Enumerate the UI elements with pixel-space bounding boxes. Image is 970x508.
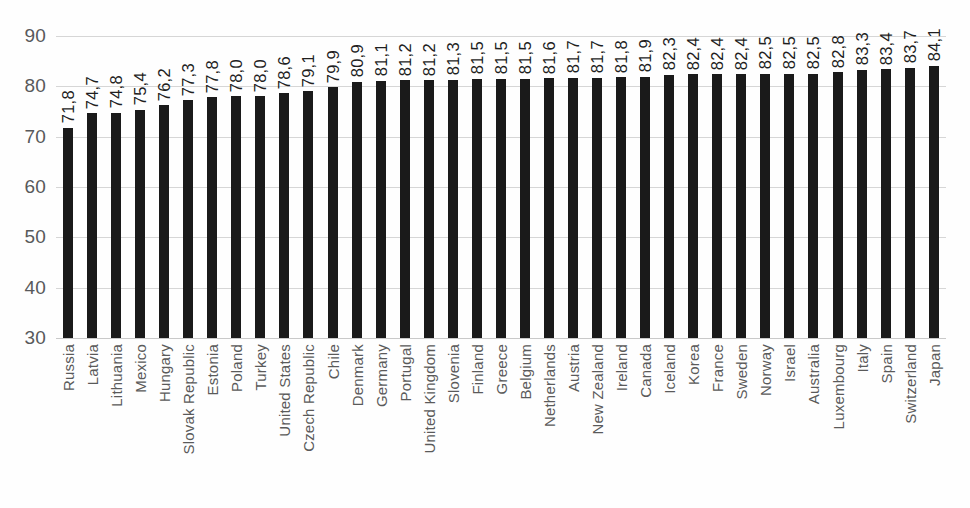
x-axis-tick: Austria bbox=[561, 342, 585, 502]
x-axis-category-label: Italy bbox=[853, 344, 870, 373]
bar[interactable] bbox=[881, 69, 891, 338]
x-axis-tick: Greece bbox=[489, 342, 513, 502]
bar[interactable] bbox=[303, 91, 313, 338]
x-axis-tick: Latvia bbox=[80, 342, 104, 502]
bar[interactable] bbox=[376, 81, 386, 338]
x-axis-category-label: Australia bbox=[805, 344, 822, 404]
bar-value-label: 78,0 bbox=[227, 59, 246, 92]
bar[interactable] bbox=[929, 66, 939, 338]
bar-value-label: 81,8 bbox=[612, 40, 631, 73]
bar[interactable] bbox=[255, 96, 265, 338]
bar[interactable] bbox=[135, 110, 145, 339]
bar[interactable] bbox=[857, 70, 867, 338]
bar[interactable] bbox=[87, 113, 97, 338]
bar-slot: 82,4 bbox=[705, 36, 729, 338]
bar[interactable] bbox=[833, 72, 843, 338]
x-axis-category-label: Greece bbox=[492, 344, 509, 394]
x-axis-category-label: Korea bbox=[685, 344, 702, 385]
bar[interactable] bbox=[905, 68, 915, 338]
bar-slot: 81,5 bbox=[489, 36, 513, 338]
y-axis-tick-label: 40 bbox=[24, 277, 46, 299]
bar-slot: 81,3 bbox=[441, 36, 465, 338]
bar[interactable] bbox=[664, 75, 674, 338]
x-axis-tick: Belgium bbox=[513, 342, 537, 502]
x-axis-category-label: Slovenia bbox=[444, 344, 461, 403]
bar-slot: 78,0 bbox=[224, 36, 248, 338]
x-axis-tick: Slovenia bbox=[441, 342, 465, 502]
x-axis-tick: Poland bbox=[224, 342, 248, 502]
bar[interactable] bbox=[424, 80, 434, 338]
bar-slot: 81,9 bbox=[633, 36, 657, 338]
bar[interactable] bbox=[808, 74, 818, 338]
bar[interactable] bbox=[400, 80, 410, 338]
x-axis-tick: Spain bbox=[874, 342, 898, 502]
y-axis-tick-label: 80 bbox=[24, 75, 46, 97]
bar[interactable] bbox=[544, 78, 554, 338]
bar-slot: 80,9 bbox=[345, 36, 369, 338]
x-axis-tick: Australia bbox=[801, 342, 825, 502]
bar-slot: 76,2 bbox=[152, 36, 176, 338]
x-axis-category-label: Ireland bbox=[613, 344, 630, 391]
x-axis-category-label: Sweden bbox=[733, 344, 750, 399]
bar-slot: 81,5 bbox=[465, 36, 489, 338]
bar-value-label: 79,1 bbox=[299, 54, 318, 87]
bar-value-label: 78,0 bbox=[251, 59, 270, 92]
bar-slot: 83,3 bbox=[850, 36, 874, 338]
bar[interactable] bbox=[688, 74, 698, 338]
bar[interactable] bbox=[640, 77, 650, 338]
bar[interactable] bbox=[328, 87, 338, 338]
bar-slot: 81,7 bbox=[585, 36, 609, 338]
x-axis-tick: Estonia bbox=[200, 342, 224, 502]
bar[interactable] bbox=[592, 78, 602, 338]
bar[interactable] bbox=[111, 113, 121, 338]
x-axis-tick: Italy bbox=[850, 342, 874, 502]
bar[interactable] bbox=[784, 74, 794, 338]
bar[interactable] bbox=[183, 100, 193, 338]
bar[interactable] bbox=[159, 105, 169, 338]
x-axis-tick: Korea bbox=[681, 342, 705, 502]
bar-slot: 82,5 bbox=[753, 36, 777, 338]
x-axis-category-label: France bbox=[709, 344, 726, 392]
x-axis-tick: Japan bbox=[922, 342, 946, 502]
bar-value-label: 81,9 bbox=[636, 39, 655, 72]
x-axis-tick: Portugal bbox=[393, 342, 417, 502]
bar-slot: 75,4 bbox=[128, 36, 152, 338]
bar-value-label: 81,2 bbox=[419, 43, 438, 76]
bar-value-label: 82,4 bbox=[708, 37, 727, 70]
bar[interactable] bbox=[496, 79, 506, 338]
bar[interactable] bbox=[207, 97, 217, 338]
bar[interactable] bbox=[568, 78, 578, 338]
bar-value-label: 82,5 bbox=[780, 36, 799, 69]
bar[interactable] bbox=[616, 77, 626, 338]
bar-slot: 82,4 bbox=[681, 36, 705, 338]
bar-slot: 78,6 bbox=[272, 36, 296, 338]
bar[interactable] bbox=[448, 80, 458, 338]
x-axis-category-label: Czech Republic bbox=[300, 344, 317, 452]
x-axis-tick: Sweden bbox=[729, 342, 753, 502]
bar[interactable] bbox=[520, 79, 530, 338]
bar-slot: 81,8 bbox=[609, 36, 633, 338]
bar-slot: 83,7 bbox=[898, 36, 922, 338]
x-axis-tick: New Zealand bbox=[585, 342, 609, 502]
bar-slot: 81,6 bbox=[537, 36, 561, 338]
bar[interactable] bbox=[736, 74, 746, 338]
x-axis-category-label: Germany bbox=[372, 344, 389, 407]
bar[interactable] bbox=[63, 128, 73, 338]
bar[interactable] bbox=[231, 96, 241, 338]
bar[interactable] bbox=[472, 79, 482, 338]
y-axis-tick-label: 90 bbox=[24, 25, 46, 47]
bar-slot: 82,3 bbox=[657, 36, 681, 338]
bar[interactable] bbox=[712, 74, 722, 338]
x-axis-tick: Mexico bbox=[128, 342, 152, 502]
bar[interactable] bbox=[279, 93, 289, 338]
x-axis-category-label: Spain bbox=[877, 344, 894, 383]
bar-slot: 82,5 bbox=[801, 36, 825, 338]
bar[interactable] bbox=[352, 82, 362, 338]
bar-slot: 81,2 bbox=[393, 36, 417, 338]
bar-slot: 74,8 bbox=[104, 36, 128, 338]
plot-area: 71,874,774,875,476,277,377,878,078,078,6… bbox=[56, 36, 946, 338]
x-axis-category-label: Austria bbox=[565, 344, 582, 392]
bar[interactable] bbox=[760, 74, 770, 338]
x-axis-category-label: Estonia bbox=[204, 344, 221, 395]
bar-slot: 74,7 bbox=[80, 36, 104, 338]
